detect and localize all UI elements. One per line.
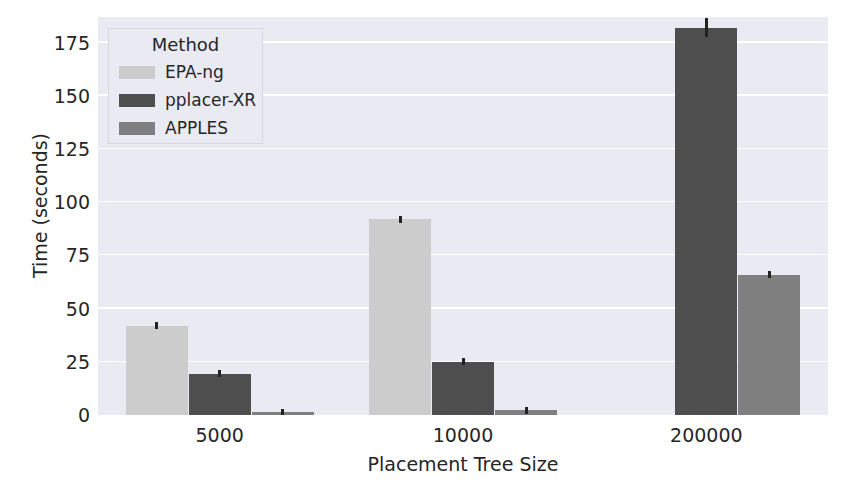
- error-bar: [525, 407, 528, 414]
- bar: [675, 28, 737, 415]
- legend-item-label: pplacer-XR: [165, 92, 256, 109]
- error-bar: [462, 358, 465, 365]
- y-axis-label: Time (seconds): [31, 26, 50, 386]
- error-bar: [155, 322, 158, 329]
- legend-swatch-icon: [119, 122, 155, 135]
- legend: Method EPA-ngpplacer-XRAPPLES: [108, 28, 263, 144]
- error-bar: [705, 18, 708, 37]
- figure-canvas: 0255075100125150175 Time (seconds) 50001…: [0, 0, 846, 492]
- legend-item[interactable]: pplacer-XR: [119, 89, 256, 111]
- error-bar: [768, 271, 771, 279]
- bar: [369, 219, 431, 415]
- error-bar: [281, 409, 284, 415]
- x-axis-ticks: 500010000200000: [98, 426, 828, 452]
- legend-item-label: EPA-ng: [165, 64, 224, 81]
- legend-swatch-icon: [119, 66, 155, 79]
- bar: [738, 275, 800, 415]
- x-tick-label: 200000: [670, 426, 743, 445]
- legend-item[interactable]: APPLES: [119, 117, 228, 139]
- bar: [189, 374, 251, 416]
- error-bar: [218, 370, 221, 377]
- x-tick-label: 5000: [195, 426, 243, 445]
- bar: [432, 362, 494, 415]
- legend-item[interactable]: EPA-ng: [119, 61, 224, 83]
- error-bar: [399, 216, 402, 223]
- legend-title: Method: [109, 35, 262, 55]
- x-tick-label: 10000: [433, 426, 493, 445]
- legend-item-label: APPLES: [165, 120, 228, 137]
- y-tick-label: 0: [30, 406, 90, 425]
- x-axis-label: Placement Tree Size: [98, 455, 828, 474]
- bar: [126, 326, 188, 415]
- legend-swatch-icon: [119, 94, 155, 107]
